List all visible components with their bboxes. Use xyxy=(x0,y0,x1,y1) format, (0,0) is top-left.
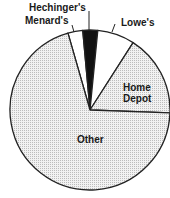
label-home-depot-line1: Home xyxy=(123,82,151,93)
leader-lines xyxy=(72,11,115,32)
label-home-depot-line2: Depot xyxy=(123,93,151,104)
label-lowes: Lowe's xyxy=(121,17,155,28)
pie-slices xyxy=(10,30,170,190)
leader-line-lowes xyxy=(112,24,115,32)
label-other: Other xyxy=(77,134,104,145)
label-menards: Menard's xyxy=(25,15,69,26)
label-hechingers: Hechinger's xyxy=(29,2,86,13)
label-home-depot: Home Depot xyxy=(123,82,151,104)
leader-line-menard xyxy=(72,25,74,32)
